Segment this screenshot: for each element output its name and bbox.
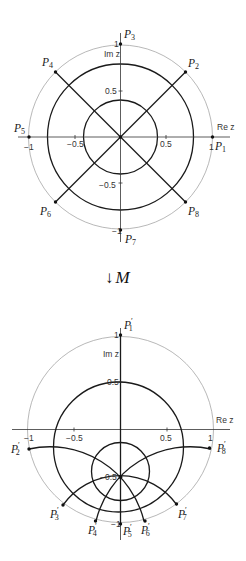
tick-x-1: 1 — [209, 142, 214, 152]
point-p2 — [184, 70, 187, 73]
tick-y-neg1-image: −1 — [111, 519, 121, 529]
point-p1 — [211, 135, 214, 138]
point-p8-prime — [208, 446, 211, 449]
tick-x-05-image: 0.5 — [160, 433, 172, 443]
label-p1-prime: P′1 — [123, 317, 133, 333]
point-p8 — [184, 200, 187, 203]
tick-x-neg1: −1 — [24, 142, 34, 152]
point-p7-prime — [175, 502, 178, 505]
tick-x-neg05: −0.5 — [67, 139, 84, 149]
point-p1-prime — [119, 333, 122, 336]
re-axis-label: Re z — [217, 122, 234, 132]
point-p3 — [119, 42, 122, 45]
label-p4-prime: P′4 — [87, 522, 97, 538]
tick-y-neg1: −1 — [112, 226, 122, 236]
tick-y-05: 0.5 — [105, 86, 117, 96]
tick-y-1-image: 1 — [114, 330, 119, 340]
tick-y-neg05: −0.5 — [99, 180, 116, 190]
label-p7: P7 — [124, 233, 136, 247]
label-p5-prime: P′5 — [122, 523, 132, 539]
mapping-label: ↓M — [105, 268, 131, 287]
label-p2: P2 — [187, 57, 199, 71]
point-p6 — [54, 200, 57, 203]
im-axis-label: Im z — [104, 49, 120, 59]
image-circle-r08 — [54, 382, 184, 512]
re-axis-label-image: Re z — [216, 415, 233, 425]
tick-y-neg05-image: −0.5 — [100, 472, 117, 482]
im-axis-label-image: Im z — [103, 349, 119, 359]
label-p7-prime: P′7 — [177, 506, 187, 522]
point-p2-prime — [27, 447, 30, 450]
bottom-plot: −1 −0.5 0.5 1 1 0.5 −0.5 −1 Re z Im z P′… — [10, 317, 233, 540]
down-arrow-icon: ↓ — [105, 268, 114, 287]
tick-x-1-image: 1 — [208, 433, 213, 443]
label-p5: P5 — [13, 122, 25, 136]
mobius-diagram: −1 −0.5 0.5 1 1 0.5 −0.5 −1 Re z Im z P1… — [0, 0, 246, 561]
point-p3-prime — [61, 503, 64, 506]
label-p8: P8 — [187, 205, 199, 219]
label-p1: P1 — [214, 140, 226, 154]
label-p2-prime: P′2 — [10, 441, 20, 457]
tick-x-neg05-image: −0.5 — [66, 433, 83, 443]
label-p6-prime: P′6 — [140, 522, 150, 538]
label-p3: P3 — [123, 28, 135, 42]
point-p4 — [54, 70, 57, 73]
pole-point — [119, 475, 123, 479]
tick-y-1: 1 — [114, 39, 119, 49]
label-p3-prime: P′3 — [49, 506, 59, 522]
label-p8-prime: P′8 — [216, 440, 226, 456]
point-p5 — [27, 135, 30, 138]
point-p6-prime — [143, 519, 146, 522]
tick-x-05: 0.5 — [160, 139, 172, 149]
tick-y-05-image: 0.5 — [107, 377, 119, 387]
origin-point — [119, 135, 122, 138]
top-plot: −1 −0.5 0.5 1 1 0.5 −0.5 −1 Re z Im z P1… — [13, 28, 234, 247]
label-p6: P6 — [39, 205, 51, 219]
tick-x-neg1-image: −1 — [24, 433, 34, 443]
label-p4: P4 — [41, 56, 53, 70]
